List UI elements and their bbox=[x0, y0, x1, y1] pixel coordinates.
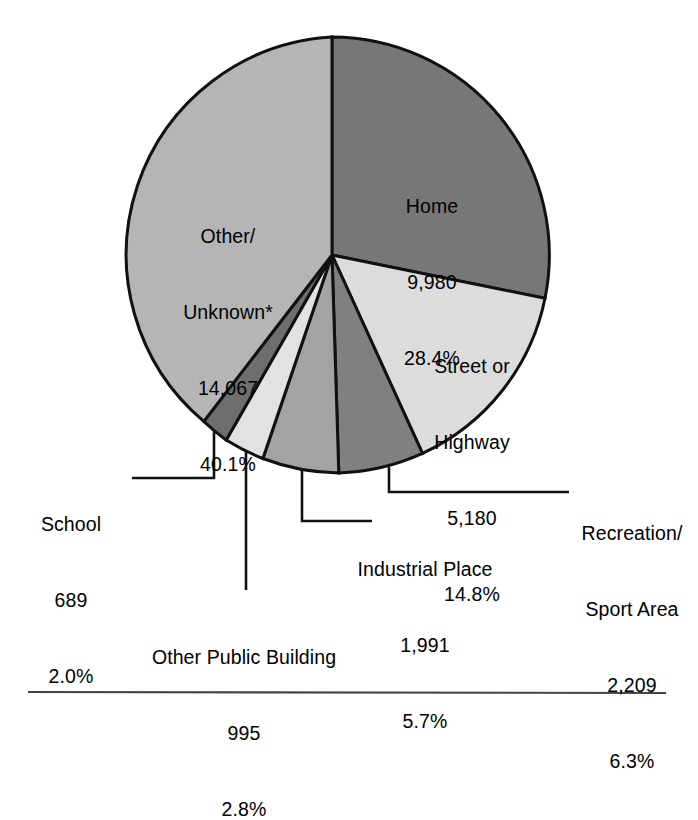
slice-label-home-name: Home bbox=[357, 194, 507, 219]
slice-label-recreation-sport-area-name-line1: Recreation/ bbox=[566, 521, 698, 546]
slice-label-school-value: 689 bbox=[16, 588, 126, 613]
slice-label-home-value: 9,980 bbox=[357, 270, 507, 295]
slice-label-recreation-sport-area-name-line2: Sport Area bbox=[566, 597, 698, 622]
slice-label-school-name: School bbox=[16, 512, 126, 537]
slice-label-industrial-place-percent: 5.7% bbox=[327, 709, 523, 734]
slice-label-street-or-highway-name-line1: Street or bbox=[396, 354, 548, 379]
slice-label-other-unknown: Other/ Unknown* 14,067 40.1% bbox=[140, 173, 316, 528]
slice-label-recreation-sport-area-value: 2,209 bbox=[566, 673, 698, 698]
slice-label-other-public-building-percent: 2.8% bbox=[120, 797, 368, 820]
slice-label-other-unknown-name-line2: Unknown* bbox=[140, 300, 316, 325]
slice-label-other-unknown-name-line1: Other/ bbox=[140, 224, 316, 249]
slice-label-industrial-place-name: Industrial Place bbox=[327, 557, 523, 582]
slice-label-industrial-place-value: 1,991 bbox=[327, 633, 523, 658]
slice-label-school-percent: 2.0% bbox=[16, 664, 126, 689]
slice-label-street-or-highway-name-line2: Highway bbox=[396, 430, 548, 455]
slice-label-other-unknown-percent: 40.1% bbox=[140, 452, 316, 477]
slice-label-school: School 689 2.0% bbox=[16, 461, 126, 740]
slice-label-recreation-sport-area: Recreation/ Sport Area 2,209 6.3% bbox=[566, 470, 698, 820]
slice-label-industrial-place: Industrial Place 1,991 5.7% bbox=[327, 506, 523, 785]
slice-label-other-unknown-value: 14,067 bbox=[140, 376, 316, 401]
slice-label-recreation-sport-area-percent: 6.3% bbox=[566, 749, 698, 774]
